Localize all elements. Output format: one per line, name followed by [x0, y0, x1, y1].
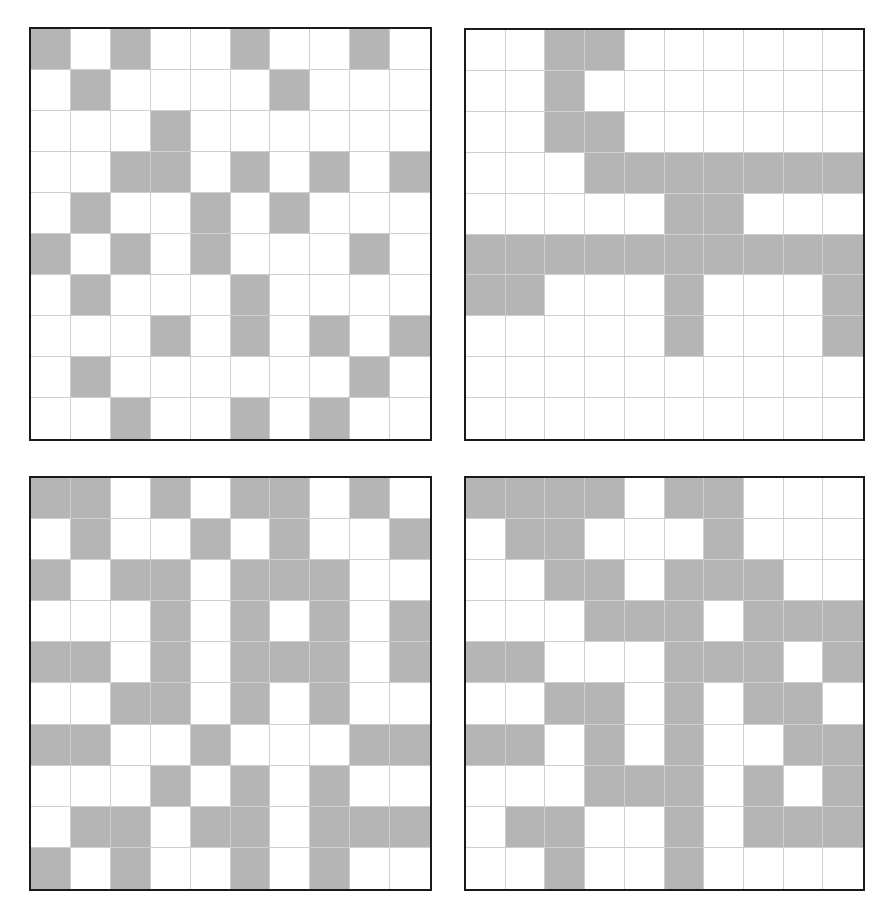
filled-cell: [71, 478, 111, 519]
empty-cell: [466, 560, 506, 601]
filled-cell: [506, 478, 546, 519]
filled-cell: [506, 519, 546, 560]
empty-cell: [151, 29, 191, 70]
empty-cell: [784, 316, 824, 357]
filled-cell: [665, 560, 705, 601]
filled-cell: [665, 478, 705, 519]
filled-cell: [784, 807, 824, 848]
filled-cell: [665, 194, 705, 235]
grid-top-left: [29, 27, 432, 441]
empty-cell: [71, 111, 111, 152]
filled-cell: [191, 725, 231, 766]
empty-cell: [466, 519, 506, 560]
empty-cell: [71, 316, 111, 357]
empty-cell: [310, 725, 350, 766]
empty-cell: [506, 398, 546, 439]
empty-cell: [71, 234, 111, 275]
empty-cell: [31, 683, 71, 724]
filled-cell: [545, 235, 585, 276]
empty-cell: [625, 316, 665, 357]
filled-cell: [665, 275, 705, 316]
empty-cell: [231, 70, 271, 111]
empty-cell: [191, 29, 231, 70]
filled-cell: [545, 71, 585, 112]
filled-cell: [704, 153, 744, 194]
empty-cell: [704, 316, 744, 357]
empty-cell: [545, 725, 585, 766]
filled-cell: [466, 235, 506, 276]
filled-cell: [191, 234, 231, 275]
empty-cell: [625, 398, 665, 439]
empty-cell: [784, 560, 824, 601]
filled-cell: [31, 848, 71, 889]
empty-cell: [585, 316, 625, 357]
filled-cell: [704, 560, 744, 601]
filled-cell: [350, 29, 390, 70]
filled-cell: [231, 152, 271, 193]
empty-cell: [625, 71, 665, 112]
empty-cell: [151, 848, 191, 889]
empty-cell: [506, 316, 546, 357]
filled-cell: [466, 725, 506, 766]
empty-cell: [466, 112, 506, 153]
filled-cell: [466, 478, 506, 519]
filled-cell: [545, 112, 585, 153]
filled-cell: [270, 642, 310, 683]
filled-cell: [744, 601, 784, 642]
empty-cell: [625, 560, 665, 601]
filled-cell: [585, 478, 625, 519]
filled-cell: [823, 725, 863, 766]
empty-cell: [704, 398, 744, 439]
empty-cell: [625, 275, 665, 316]
empty-cell: [466, 683, 506, 724]
empty-cell: [111, 725, 151, 766]
filled-cell: [823, 316, 863, 357]
filled-cell: [744, 560, 784, 601]
empty-cell: [585, 71, 625, 112]
empty-cell: [784, 30, 824, 71]
filled-cell: [744, 766, 784, 807]
filled-cell: [231, 29, 271, 70]
empty-cell: [31, 152, 71, 193]
filled-cell: [625, 601, 665, 642]
empty-cell: [585, 848, 625, 889]
empty-cell: [151, 193, 191, 234]
empty-cell: [270, 807, 310, 848]
empty-cell: [71, 29, 111, 70]
filled-cell: [704, 194, 744, 235]
filled-cell: [744, 153, 784, 194]
empty-cell: [784, 766, 824, 807]
empty-cell: [704, 275, 744, 316]
empty-cell: [744, 519, 784, 560]
empty-cell: [466, 766, 506, 807]
empty-cell: [231, 193, 271, 234]
empty-cell: [151, 357, 191, 398]
empty-cell: [784, 478, 824, 519]
filled-cell: [231, 478, 271, 519]
filled-cell: [545, 30, 585, 71]
empty-cell: [71, 766, 111, 807]
filled-cell: [71, 642, 111, 683]
empty-cell: [784, 71, 824, 112]
empty-cell: [744, 30, 784, 71]
empty-cell: [744, 275, 784, 316]
filled-cell: [585, 725, 625, 766]
filled-cell: [191, 807, 231, 848]
filled-cell: [704, 519, 744, 560]
empty-cell: [71, 683, 111, 724]
empty-cell: [231, 357, 271, 398]
empty-cell: [350, 766, 390, 807]
filled-cell: [506, 807, 546, 848]
empty-cell: [545, 642, 585, 683]
empty-cell: [350, 275, 390, 316]
empty-cell: [231, 234, 271, 275]
filled-cell: [350, 357, 390, 398]
empty-cell: [585, 642, 625, 683]
filled-cell: [231, 601, 271, 642]
empty-cell: [270, 357, 310, 398]
filled-cell: [111, 683, 151, 724]
filled-cell: [151, 152, 191, 193]
empty-cell: [545, 766, 585, 807]
empty-cell: [191, 683, 231, 724]
empty-cell: [466, 194, 506, 235]
